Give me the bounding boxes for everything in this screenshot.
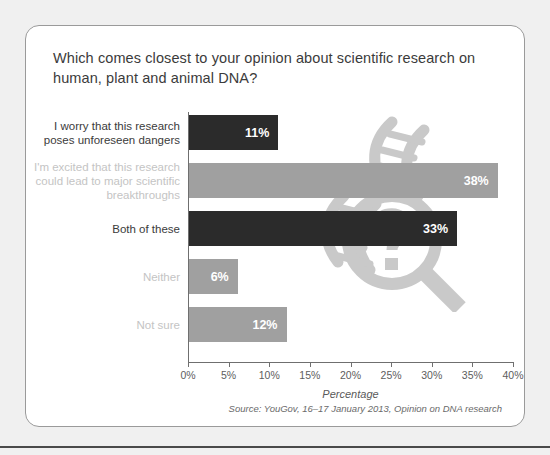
bar-value-label: 6% [211,270,238,284]
x-tick-label: 25% [381,369,402,381]
bar: 6% [189,259,238,294]
chart-card: Which comes closest to your opinion abou… [25,25,525,427]
x-tick-label: 40% [502,369,523,381]
category-label: I'm excited that this research could lea… [20,160,180,202]
chart-axes: 0%5%10%15%20%25%30%35%40% 11%I worry tha… [188,112,513,362]
bar-value-label: 38% [464,174,498,188]
bar: 38% [189,163,498,198]
x-tick [513,362,514,367]
bottom-divider [0,446,550,448]
category-label: I worry that this research poses unfores… [20,119,180,147]
x-tick-label: 10% [259,369,280,381]
x-tick-label: 15% [299,369,320,381]
bar-value-label: 33% [423,222,457,236]
category-label-wrap: I'm excited that this research could lea… [20,163,180,198]
bar: 12% [189,307,287,342]
source-note: Source: YouGov, 16–17 January 2013, Opin… [229,403,502,414]
category-label: Not sure [20,318,180,332]
category-label-wrap: Neither [20,259,180,294]
category-label: Neither [20,270,180,284]
bar: 33% [189,211,457,246]
bar-value-label: 11% [245,126,278,140]
x-tick [229,362,230,367]
x-tick-label: 0% [180,369,195,381]
bar: 11% [189,115,278,150]
x-axis-label: Percentage [188,388,513,400]
x-tick [269,362,270,367]
category-label-wrap: Both of these [20,211,180,246]
x-tick [351,362,352,367]
x-tick-label: 20% [340,369,361,381]
category-label-wrap: Not sure [20,307,180,342]
x-tick-label: 35% [462,369,483,381]
x-tick [188,362,189,367]
chart-plot: 0%5%10%15%20%25%30%35%40% 11%I worry tha… [26,26,526,428]
category-label-wrap: I worry that this research poses unfores… [20,115,180,150]
page-root: Which comes closest to your opinion abou… [0,0,550,455]
bar-value-label: 12% [252,318,286,332]
x-tick [432,362,433,367]
x-tick-label: 5% [221,369,236,381]
category-label: Both of these [20,222,180,236]
x-tick [391,362,392,367]
x-tick-label: 30% [421,369,442,381]
x-tick [472,362,473,367]
x-tick [310,362,311,367]
